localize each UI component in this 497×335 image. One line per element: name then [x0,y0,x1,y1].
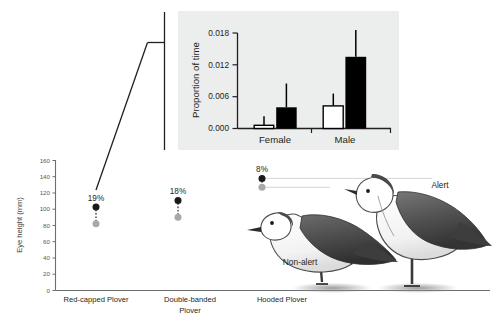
inset-ytick-label-0: 0.000 [208,123,229,133]
alert-bird-beak [344,189,357,195]
inset-ytick-label-2: 0.012 [208,60,229,70]
inset-bar-female-filled [276,107,297,128]
main-ytick-label-100: 100 [40,205,51,212]
percent-label-double-banded: 18% [170,187,186,196]
main-xcat-red-capped: Red-capped Plover [63,295,128,304]
main-y-axis-label: Eye height (mm) [15,197,24,253]
alert-point-hooded [259,175,266,182]
inset-bar-male-filled [345,57,366,129]
data-pair-hooded-plover: 8% [256,165,268,191]
inset-chart-panel: 0.000 0.006 0.012 0.018 Proportion of ti… [178,11,399,150]
inset-callout-leader [96,12,165,190]
main-xcat-hooded: Hooded Plover [257,295,308,304]
non-alert-bird [247,212,398,284]
data-pair-double-banded-plover: 18% [170,187,186,221]
main-ytick-label-140: 140 [40,173,51,180]
figure-root: 0.000 0.006 0.012 0.018 Proportion of ti… [0,0,497,335]
percent-label-red-capped: 19% [88,194,104,203]
alert-bird-shadow [378,283,458,293]
inset-bar-female-open [254,125,274,128]
main-ytick-label-120: 120 [40,189,51,196]
percent-label-hooded: 8% [256,165,268,174]
main-ytick-label-0: 0 [47,287,51,294]
inset-ytick-label-1: 0.006 [208,91,229,101]
non-alert-bird-eye [270,221,274,225]
non-alert-bird-shadow [292,283,372,293]
main-ytick-label-160: 160 [40,157,51,164]
alert-bird [344,174,492,286]
inset-ytick-label-3: 0.018 [208,28,229,38]
main-ytick-label-40: 40 [43,254,50,261]
inset-bar-male-open [323,106,343,129]
non-alert-point-red-capped [93,220,100,227]
main-xcat-double-banded-line2: Plover [179,306,201,315]
figure-canvas: 0.000 0.006 0.012 0.018 Proportion of ti… [0,0,497,335]
main-ytick-label-80: 80 [43,222,50,229]
inset-xcat-female: Female [259,134,291,145]
alert-point-red-capped [93,204,100,211]
alert-bird-eye [366,189,370,193]
alert-label: Alert [431,180,449,190]
main-ytick-label-20: 20 [43,270,50,277]
non-alert-bird-beak [247,227,261,232]
non-alert-point-hooded [259,184,266,191]
bird-illustrations: Non-alert Alert [247,174,492,293]
non-alert-label: Non-alert [283,257,318,267]
main-ytick-label-60: 60 [43,238,50,245]
main-y-ticks: 0 20 40 60 80 100 120 140 160 [40,157,56,294]
inset-xcat-male: Male [335,134,356,145]
data-pair-red-capped-plover: 19% [88,194,104,228]
main-xcat-double-banded: Double-banded [164,295,216,304]
alert-point-double-banded [175,197,182,204]
inset-y-axis-label: Proportion of time [190,42,201,118]
non-alert-point-double-banded [175,214,182,221]
